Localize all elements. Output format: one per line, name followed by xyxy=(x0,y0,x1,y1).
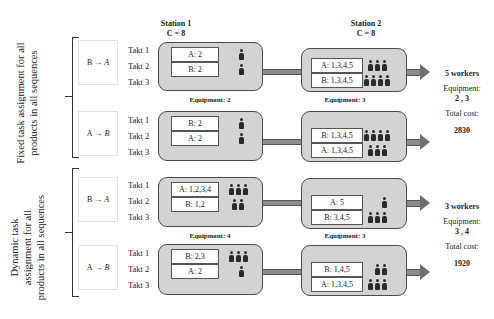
task-cell: A: 1,3,4,5 xyxy=(311,58,363,73)
sequence-box: A → B xyxy=(78,245,118,290)
worker-icon xyxy=(229,251,234,262)
takt-1-label: Takt 1 xyxy=(128,180,149,190)
summary-equipment-value: 3 , 4 xyxy=(432,227,492,237)
station-2-block: B: 1,4,5 A: 1,3,4,5 xyxy=(301,245,407,296)
sequence-from: A xyxy=(87,263,93,272)
worker-icon xyxy=(375,145,380,156)
worker-icon xyxy=(371,130,376,141)
worker-group xyxy=(239,64,244,75)
takt-1-label: Takt 1 xyxy=(128,115,149,125)
summary-workers: 5 workers xyxy=(432,69,492,79)
output-arrow-shaft xyxy=(407,69,421,76)
worker-icon xyxy=(382,264,387,275)
worker-icon xyxy=(378,75,383,86)
station-2-block: A: 1,3,4,5 B: 1,3,4,5 xyxy=(301,48,407,92)
task-cell: A: 5 xyxy=(311,195,363,210)
summary-equipment-label: Equipment: xyxy=(432,217,492,227)
worker-icon xyxy=(375,212,380,223)
station-2-equipment: Equipment: 3 xyxy=(305,232,385,240)
worker-icon xyxy=(385,130,390,141)
station-2-equipment: Equipment: 3 xyxy=(305,96,385,104)
sequence-box: A → B xyxy=(78,111,118,156)
task-cell: B: 2,3 xyxy=(171,249,219,264)
station-1-cycle: C = 8 xyxy=(146,29,206,39)
takt-1-label: Takt 1 xyxy=(128,45,149,55)
summary-cost-value: 1920 xyxy=(432,259,492,269)
takt-3-label: Takt 3 xyxy=(128,280,149,290)
sequence-arrow: → xyxy=(94,129,102,138)
worker-icon xyxy=(382,197,387,208)
task-cell: A: 1,3,4,5 xyxy=(311,143,363,158)
worker-group xyxy=(368,212,387,223)
sequence-arrow: → xyxy=(94,263,102,272)
worker-icon xyxy=(371,75,376,86)
worker-group xyxy=(368,60,387,71)
task-cell: A: 2 xyxy=(171,47,219,62)
summary-workers: 3 workers xyxy=(432,202,492,212)
station-1-header: Station 1 C = 8 xyxy=(146,19,206,39)
worker-group xyxy=(382,197,387,208)
worker-icon xyxy=(364,75,369,86)
worker-icon xyxy=(232,199,237,210)
sequence-from: A xyxy=(87,129,93,138)
output-arrow-shaft xyxy=(407,139,421,146)
station-1-equipment: Equipment: 4 xyxy=(170,232,250,240)
worker-icon xyxy=(385,75,390,86)
task-cell: B: 1,2 xyxy=(171,197,219,212)
summary-equipment-label: Equipment: xyxy=(432,84,492,94)
task-cell: B: 1,3,4,5 xyxy=(311,128,363,143)
sequence-from: B xyxy=(87,195,92,204)
takt-2-label: Takt 2 xyxy=(128,196,149,206)
group-fixed-bracket-tick xyxy=(65,96,73,97)
worker-group xyxy=(364,75,390,86)
worker-icon xyxy=(368,145,373,156)
station-2-title: Station 2 xyxy=(336,19,396,29)
station-1-block: B: 2,3 A: 2 xyxy=(158,244,263,295)
worker-group xyxy=(239,266,244,277)
worker-icon xyxy=(382,279,387,290)
group-dynamic-label-line3: products in all sequences xyxy=(34,173,47,319)
sequence-to: B xyxy=(104,263,109,272)
task-cell: B: 1,3,4,5 xyxy=(311,73,363,88)
sequence-box: B → A xyxy=(78,40,118,85)
worker-icon xyxy=(239,266,244,277)
group-dynamic-label-line1: Dynamic task xyxy=(8,173,21,319)
summary-cost-label: Total cost: xyxy=(432,242,492,252)
sequence-arrow: → xyxy=(94,58,102,67)
group-dynamic-label-line2: assignment for all xyxy=(21,173,34,319)
task-cell: A: 2 xyxy=(171,264,219,279)
worker-group xyxy=(239,118,244,129)
worker-group xyxy=(232,199,244,210)
worker-group xyxy=(364,130,390,141)
station-2-block: A: 5 B: 3,4,5 xyxy=(301,178,407,229)
worker-icon xyxy=(368,279,373,290)
worker-icon xyxy=(378,130,383,141)
station-2-cycle: C = 8 xyxy=(336,29,396,39)
worker-icon xyxy=(382,60,387,71)
worker-group xyxy=(229,184,248,195)
worker-icon xyxy=(368,212,373,223)
worker-group xyxy=(368,279,387,290)
worker-group xyxy=(239,49,244,60)
output-arrow-shaft xyxy=(407,269,421,276)
worker-icon xyxy=(239,118,244,129)
worker-icon xyxy=(229,184,234,195)
task-cell: A: 2 xyxy=(171,131,219,146)
task-cell: A: 1,3,4,5 xyxy=(311,277,363,292)
worker-icon xyxy=(236,184,241,195)
task-cell: B: 2 xyxy=(171,62,219,77)
worker-icon xyxy=(243,184,248,195)
output-arrow-head-icon xyxy=(420,195,430,211)
group-fixed-summary: 5 workers Equipment: 2 , 3 Total cost: 2… xyxy=(432,69,492,136)
sequence-to: A xyxy=(104,58,109,67)
output-arrow-shaft xyxy=(407,200,421,207)
worker-icon xyxy=(239,49,244,60)
task-cell: A: 1,2,3,4 xyxy=(171,182,219,197)
group-dynamic-bracket-tick xyxy=(65,232,73,233)
group-dynamic-summary: 3 workers Equipment: 3 , 4 Total cost: 1… xyxy=(432,202,492,269)
takt-3-label: Takt 3 xyxy=(128,212,149,222)
worker-icon xyxy=(239,133,244,144)
worker-icon xyxy=(375,60,380,71)
worker-icon xyxy=(236,251,241,262)
worker-icon xyxy=(243,251,248,262)
